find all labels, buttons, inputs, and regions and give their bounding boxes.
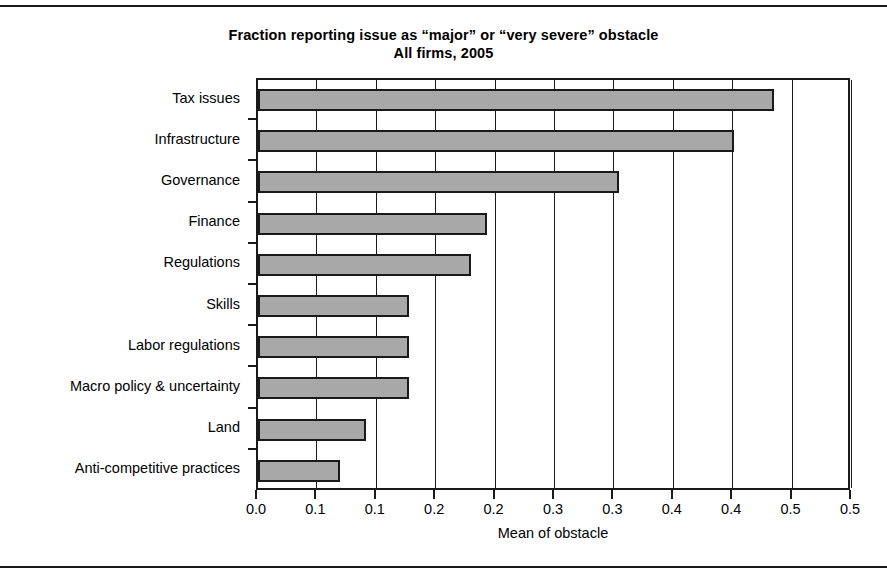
bar: [258, 130, 734, 152]
bar: [258, 377, 409, 399]
y-axis-tick: [248, 365, 256, 367]
chart-title: Fraction reporting issue as “major” or “…: [0, 26, 887, 62]
x-axis-tick-label: 0.2: [472, 500, 516, 518]
y-axis-tick: [248, 324, 256, 326]
gridline: [851, 80, 852, 488]
y-axis-label: Tax issues: [0, 90, 240, 107]
x-axis-tick: [790, 490, 792, 499]
bar-row: [258, 80, 848, 121]
y-axis-label: Infrastructure: [0, 131, 240, 148]
bar-row: [258, 162, 848, 203]
bar: [258, 89, 774, 111]
y-axis-label: Land: [0, 419, 240, 436]
x-axis-tick-label: 0.4: [650, 500, 694, 518]
y-axis-label: Macro policy & uncertainty: [0, 378, 240, 395]
x-axis-tick: [255, 490, 257, 499]
bar-row: [258, 410, 848, 451]
y-axis-tick: [248, 407, 256, 409]
y-axis-tick: [248, 201, 256, 203]
y-axis-label: Finance: [0, 213, 240, 230]
x-axis-tick-label: 0.4: [709, 500, 753, 518]
x-axis-tick: [314, 490, 316, 499]
x-axis-tick-labels: 0.00.10.10.20.20.30.30.40.40.50.5: [0, 500, 887, 520]
x-axis-tick: [671, 490, 673, 499]
bar-row: [258, 327, 848, 368]
x-axis-tick: [433, 490, 435, 499]
y-axis-tick: [248, 242, 256, 244]
bar: [258, 213, 487, 235]
bars-layer: [258, 80, 848, 488]
y-axis-tick: [248, 448, 256, 450]
x-axis-tick: [849, 490, 851, 499]
bar: [258, 336, 409, 358]
x-axis-tick-label: 0.0: [234, 500, 278, 518]
x-axis-tick-label: 0.1: [353, 500, 397, 518]
plot-area: [256, 78, 850, 490]
figure-bottom-rule: [0, 566, 887, 568]
bar: [258, 171, 619, 193]
y-axis-tick: [248, 283, 256, 285]
y-axis-label: Regulations: [0, 254, 240, 271]
y-axis-category-labels: Tax issuesInfrastructureGovernanceFinanc…: [0, 78, 250, 490]
x-axis-tick-label: 0.3: [531, 500, 575, 518]
x-axis-tick-label: 0.5: [828, 500, 872, 518]
y-axis-label: Governance: [0, 172, 240, 189]
x-axis-tick-label: 0.2: [412, 500, 456, 518]
bar-row: [258, 451, 848, 492]
bar-row: [258, 121, 848, 162]
y-axis-ticks: [248, 78, 256, 490]
y-axis-label: Anti-competitive practices: [0, 460, 240, 477]
figure-top-rule: [0, 5, 887, 7]
x-axis-tick: [493, 490, 495, 499]
bar: [258, 419, 366, 441]
x-axis-ticks: [0, 490, 887, 499]
bar-row: [258, 204, 848, 245]
bar: [258, 295, 409, 317]
x-axis-tick: [730, 490, 732, 499]
bar: [258, 254, 471, 276]
x-axis-tick: [374, 490, 376, 499]
bar: [258, 460, 340, 482]
x-axis-tick-label: 0.3: [590, 500, 634, 518]
x-axis-tick: [552, 490, 554, 499]
y-axis-label: Skills: [0, 296, 240, 313]
y-axis-tick: [248, 118, 256, 120]
x-axis-tick-label: 0.5: [769, 500, 813, 518]
chart-title-line-1: Fraction reporting issue as “major” or “…: [229, 27, 659, 43]
x-axis-tick-label: 0.1: [293, 500, 337, 518]
y-axis-tick: [248, 159, 256, 161]
bar-row: [258, 368, 848, 409]
bar-row: [258, 286, 848, 327]
x-axis-tick: [611, 490, 613, 499]
x-axis-title: Mean of obstacle: [256, 524, 850, 542]
y-axis-label: Labor regulations: [0, 337, 240, 354]
chart-title-line-2: All firms, 2005: [0, 44, 887, 62]
bar-row: [258, 245, 848, 286]
